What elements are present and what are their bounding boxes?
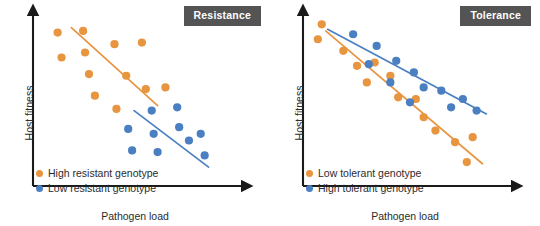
- legend-item: Low resistant genotype: [36, 182, 158, 195]
- data-point: [79, 27, 87, 35]
- data-point: [410, 68, 418, 76]
- legend-marker-orange-icon: [36, 170, 43, 177]
- figure-root: ResistanceHost fitnessPathogen loadHigh …: [0, 0, 540, 226]
- data-point: [437, 87, 445, 95]
- data-point: [54, 28, 62, 36]
- data-point: [128, 146, 136, 154]
- data-point: [459, 95, 467, 103]
- data-point: [154, 148, 162, 156]
- panel-title-badge: Tolerance: [461, 7, 530, 25]
- x-axis-label: Pathogen load: [270, 210, 540, 222]
- data-point: [420, 83, 428, 91]
- data-point: [197, 130, 205, 138]
- data-point: [122, 72, 130, 80]
- data-point: [85, 70, 93, 78]
- data-point: [386, 78, 394, 86]
- legend-marker-orange-icon: [306, 170, 313, 177]
- data-point: [394, 93, 402, 101]
- data-point: [365, 60, 373, 68]
- data-point: [473, 107, 481, 115]
- data-point: [161, 83, 169, 91]
- trend-line-E8953F: [71, 28, 157, 106]
- x-axis-label: Pathogen load: [0, 210, 270, 222]
- y-axis-label: Host fitness: [293, 86, 305, 141]
- data-point: [112, 105, 120, 113]
- data-point: [57, 53, 65, 61]
- panel-tolerance: ToleranceHost fitnessPathogen loadLow to…: [270, 0, 540, 226]
- data-point: [447, 103, 455, 111]
- data-point: [124, 125, 132, 133]
- data-point: [91, 92, 99, 100]
- legend-marker-blue-icon: [306, 185, 313, 192]
- data-point: [431, 126, 439, 134]
- data-point: [451, 138, 459, 146]
- data-point: [138, 38, 146, 46]
- panel-title-badge: Resistance: [185, 7, 260, 25]
- legend-label: High resistant genotype: [48, 168, 158, 179]
- legend-label: Low tolerant genotype: [318, 168, 421, 179]
- legend-item: High tolerant genotype: [306, 182, 424, 195]
- legend: Low tolerant genotypeHigh tolerant genot…: [306, 167, 424, 195]
- data-point: [173, 103, 181, 111]
- data-point: [175, 123, 183, 131]
- data-point: [420, 113, 428, 121]
- data-point: [150, 130, 158, 138]
- data-point: [314, 35, 322, 43]
- data-point: [463, 158, 471, 166]
- data-point: [373, 42, 381, 50]
- data-point: [110, 40, 118, 48]
- trend-line-4A7FC1: [134, 111, 208, 167]
- panel-resistance: ResistanceHost fitnessPathogen loadHigh …: [0, 0, 270, 226]
- data-point: [469, 133, 477, 141]
- legend-label: Low resistant genotype: [48, 183, 156, 194]
- data-point: [363, 78, 371, 86]
- data-point: [201, 151, 209, 159]
- legend-marker-blue-icon: [36, 185, 43, 192]
- trend-line-E8953F: [326, 31, 483, 164]
- data-point: [318, 20, 326, 28]
- data-point: [339, 47, 347, 55]
- data-point: [392, 57, 400, 65]
- legend: High resistant genotypeLow resistant gen…: [36, 167, 158, 195]
- legend-label: High tolerant genotype: [318, 183, 424, 194]
- data-point: [142, 85, 150, 93]
- data-point: [81, 48, 89, 56]
- data-point: [349, 30, 357, 38]
- legend-item: Low tolerant genotype: [306, 167, 424, 180]
- data-point: [406, 98, 414, 106]
- data-point: [185, 136, 193, 144]
- y-axis-label: Host fitness: [23, 86, 35, 141]
- data-point: [148, 107, 156, 115]
- data-point: [353, 62, 361, 70]
- legend-item: High resistant genotype: [36, 167, 158, 180]
